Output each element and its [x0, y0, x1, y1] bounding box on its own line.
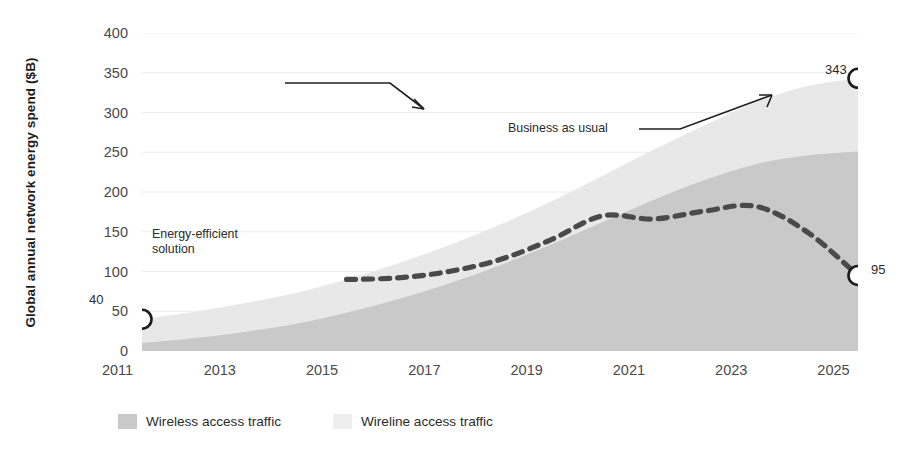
y-axis-title: Global annual network energy spend ($B): [23, 13, 38, 373]
legend-label-1: Wireline access traffic: [361, 414, 493, 429]
annotation-business-as-usual: Business as usual: [508, 121, 648, 136]
annotation-energy-efficient-solution: Energy-efficient solution: [152, 227, 282, 257]
leader-line-energy-efficient: [285, 83, 424, 109]
x-axis-tick-labels: 20112013201520172019202120232025: [0, 362, 918, 392]
legend-label-0: Wireless access traffic: [146, 414, 281, 429]
legend-swatch-1: [333, 414, 352, 429]
x-tick-2011: 2011: [83, 362, 153, 378]
x-tick-2025: 2025: [799, 362, 869, 378]
legend-item-0[interactable]: Wireless access traffic: [118, 414, 281, 429]
y-tick-100: 100: [82, 264, 128, 280]
y-tick-350: 350: [82, 65, 128, 81]
x-tick-2021: 2021: [594, 362, 664, 378]
y-tick-250: 250: [82, 144, 128, 160]
marker-40: [142, 310, 152, 329]
y-tick-150: 150: [82, 224, 128, 240]
value-label-start: 40: [89, 292, 103, 307]
x-tick-2019: 2019: [492, 362, 562, 378]
chart-legend: Wireless access trafficWireline access t…: [118, 414, 493, 429]
marker-95: [849, 266, 859, 285]
y-tick-0: 0: [82, 343, 128, 359]
y-axis-tick-labels: 050100150200250300350400: [42, 0, 128, 462]
x-tick-2023: 2023: [696, 362, 766, 378]
y-tick-300: 300: [82, 105, 128, 121]
value-label-bau-end: 343: [825, 62, 847, 77]
x-tick-2017: 2017: [389, 362, 459, 378]
value-label-efficient-end: 95: [871, 262, 885, 277]
marker-343: [849, 69, 859, 88]
legend-swatch-0: [118, 414, 137, 429]
annotation-efficient-line1: Energy-efficient: [152, 227, 238, 241]
y-tick-200: 200: [82, 184, 128, 200]
plot-area: [142, 33, 858, 351]
y-tick-400: 400: [82, 25, 128, 41]
legend-item-1[interactable]: Wireline access traffic: [333, 414, 493, 429]
x-tick-2013: 2013: [185, 362, 255, 378]
chart-svg: [142, 33, 858, 351]
chart-container: Global annual network energy spend ($B) …: [0, 0, 918, 462]
annotation-efficient-line2: solution: [152, 242, 195, 256]
x-tick-2015: 2015: [287, 362, 357, 378]
